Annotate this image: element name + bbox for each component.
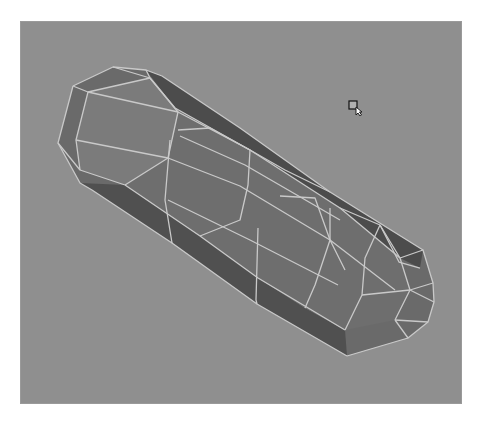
- 3d-viewport[interactable]: [20, 21, 462, 404]
- capsule-mesh[interactable]: [20, 21, 462, 404]
